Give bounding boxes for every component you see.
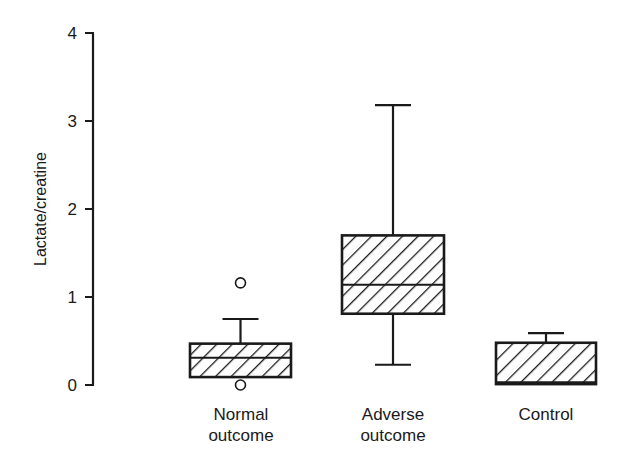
iqr-box bbox=[496, 343, 596, 384]
outlier-point bbox=[236, 380, 246, 390]
boxes-group bbox=[190, 105, 596, 390]
category-label-line: Normal bbox=[171, 404, 311, 425]
box-plot-chart: 01234 Lactate/creatine bbox=[0, 0, 628, 465]
y-tick-label: 1 bbox=[68, 288, 77, 307]
category-label-line: outcome bbox=[171, 425, 311, 446]
category-label-line: Control bbox=[476, 404, 616, 425]
category-label-normal: Normal outcome bbox=[171, 404, 311, 446]
box-adverse-outcome bbox=[342, 105, 444, 365]
y-tick-label: 3 bbox=[68, 112, 77, 131]
box-control bbox=[496, 333, 596, 384]
y-tick-label: 2 bbox=[68, 200, 77, 219]
y-tick-label: 4 bbox=[68, 24, 77, 43]
category-label-line: outcome bbox=[323, 425, 463, 446]
y-tick-label: 0 bbox=[68, 376, 77, 395]
iqr-box bbox=[190, 344, 291, 377]
category-label-adverse: Adverse outcome bbox=[323, 404, 463, 446]
y-axis-title: Lactate/creatine bbox=[32, 152, 49, 266]
category-label-control: Control bbox=[476, 404, 616, 425]
box-normal-outcome bbox=[190, 278, 291, 390]
category-label-line: Adverse bbox=[323, 404, 463, 425]
iqr-box bbox=[342, 235, 444, 313]
outlier-point bbox=[236, 278, 246, 288]
y-axis: 01234 bbox=[68, 24, 94, 395]
